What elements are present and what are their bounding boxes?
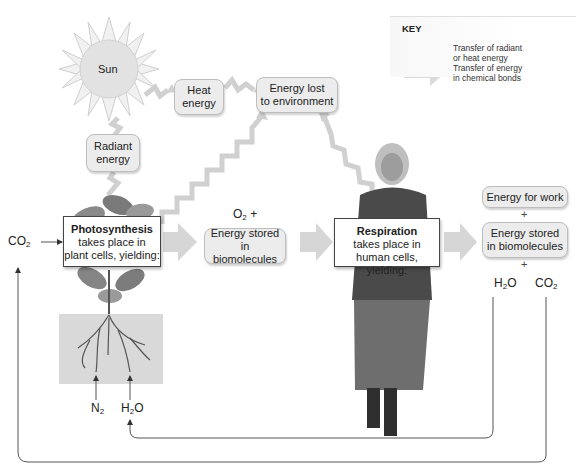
- respiration-title: Respiration: [335, 225, 439, 238]
- energy-lost-line2: to environment: [261, 95, 334, 107]
- energy-for-work-box: Energy for work: [482, 186, 568, 208]
- radiant-line2: energy: [96, 153, 130, 165]
- photosynthesis-box: Photosynthesis takes place in plant cell…: [63, 216, 161, 267]
- photosynthesis-line1: takes place in: [64, 236, 160, 249]
- key-radiant-text: Transfer of radiantor heat energy: [453, 43, 522, 63]
- radiant-energy-box: Radiantenergy: [86, 134, 140, 172]
- heat-line2: energy: [182, 97, 216, 109]
- plus-sign: +: [521, 258, 527, 270]
- plus-sign: +: [521, 208, 527, 220]
- sun-label: Sun: [98, 63, 118, 75]
- h2o-output-label: H2O: [494, 276, 516, 291]
- h2o-input-label: H2O: [121, 401, 143, 416]
- photosynthesis-line2: plant cells, yielding:: [64, 249, 160, 262]
- photosynthesis-title: Photosynthesis: [64, 223, 160, 236]
- energy-stored-output-line1: Energy stored: [491, 227, 559, 239]
- energy-for-work-label: Energy for work: [486, 191, 563, 204]
- co2-input-label: CO2: [8, 234, 30, 249]
- n2-label: N2: [91, 401, 104, 416]
- energy-stored-output-box: Energy storedin biomolecules: [482, 222, 568, 258]
- energy-stored-box: Energy stored inbiomolecules: [204, 228, 286, 264]
- o2-label: O2 +: [233, 207, 257, 222]
- radiant-arrows: [108, 80, 384, 224]
- person-illustration: [352, 143, 432, 436]
- radiant-line1: Radiant: [94, 140, 132, 152]
- energy-lost-line1: Energy lost: [269, 82, 324, 94]
- respiration-line2: human cells, yielding:: [335, 251, 439, 277]
- co2-output-label: CO2: [535, 276, 557, 291]
- heat-line1: Heat: [187, 84, 210, 96]
- key-chemical-text: Transfer of energyin chemical bonds: [453, 63, 522, 83]
- heat-energy-box: Heatenergy: [174, 79, 224, 115]
- energy-lost-box: Energy lostto environment: [256, 77, 338, 113]
- respiration-box: Respiration takes place in human cells, …: [334, 218, 440, 267]
- key-title: KEY: [402, 23, 422, 34]
- energy-stored-line2: biomolecules: [213, 253, 277, 265]
- energy-stored-output-line2: in biomolecules: [487, 240, 563, 252]
- respiration-line1: takes place in: [335, 238, 439, 251]
- energy-stored-line1: Energy stored in: [211, 227, 279, 252]
